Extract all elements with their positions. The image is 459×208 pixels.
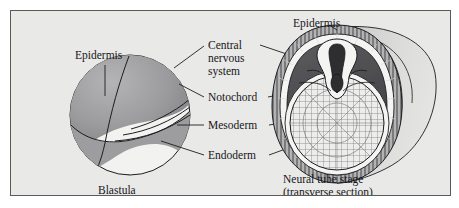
- embryo-development-figure: Epidermis Blastula Central nervous syste…: [11, 11, 451, 196]
- label-notochord: Notochord: [208, 91, 257, 103]
- caption-neural-tube-line1: Neural tube stage: [283, 173, 363, 186]
- label-cns-line1: Central: [208, 39, 242, 51]
- notochord: [331, 74, 343, 92]
- label-endoderm: Endoderm: [208, 149, 256, 161]
- caption-neural-tube-line2: (transverse section): [283, 186, 373, 196]
- label-cns-line2: nervous: [208, 52, 245, 64]
- neural-tube-diagram: Epidermis Neural tube stage (transverse …: [272, 17, 436, 196]
- label-epidermis-left: Epidermis: [75, 49, 123, 62]
- label-mesoderm: Mesoderm: [208, 119, 257, 131]
- label-cns-line3: system: [208, 65, 240, 78]
- blastula-diagram: Epidermis Blastula: [70, 49, 191, 196]
- caption-blastula: Blastula: [98, 184, 136, 196]
- leader-cns-left: [174, 46, 204, 68]
- figure-panel: Epidermis Blastula Central nervous syste…: [10, 10, 451, 196]
